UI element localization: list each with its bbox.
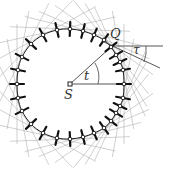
curve-point [118, 104, 122, 108]
curve-point [15, 82, 19, 86]
tangent-ray [0, 1, 72, 88]
curve-point [81, 29, 85, 33]
center-point-s [68, 82, 72, 86]
curve-point [29, 122, 33, 126]
curve-point [102, 38, 106, 42]
curve-point [68, 27, 72, 31]
curve-point [20, 109, 24, 113]
curve-point [81, 135, 85, 139]
curve-point [16, 68, 20, 72]
curve-point [114, 111, 118, 115]
curve-point [109, 119, 113, 123]
diagram: S Q t τ [0, 0, 169, 175]
curve-point [29, 42, 33, 46]
curve-point [109, 45, 113, 49]
curve-figure [0, 0, 169, 175]
curve-point [68, 137, 72, 141]
label-tau: τ [133, 44, 140, 56]
tangent-ray [0, 81, 72, 168]
curve-point [55, 28, 59, 32]
curve-point [41, 131, 45, 135]
curve-point [114, 53, 118, 57]
curve-point [121, 96, 125, 100]
curve-point [122, 82, 126, 86]
curve-point [118, 60, 122, 64]
label-q: Q [110, 27, 121, 40]
curve-point [20, 55, 24, 59]
label-s: S [64, 88, 73, 101]
curve-point [121, 68, 125, 72]
radius-sq-line [70, 47, 111, 84]
label-t: t [84, 69, 89, 82]
curve-point [16, 96, 20, 100]
curve-point [41, 33, 45, 37]
angle-t-arc [95, 63, 99, 84]
curve-point [92, 131, 96, 135]
curve-point [55, 136, 59, 140]
curve-point [92, 33, 96, 37]
curve-point [102, 126, 106, 130]
